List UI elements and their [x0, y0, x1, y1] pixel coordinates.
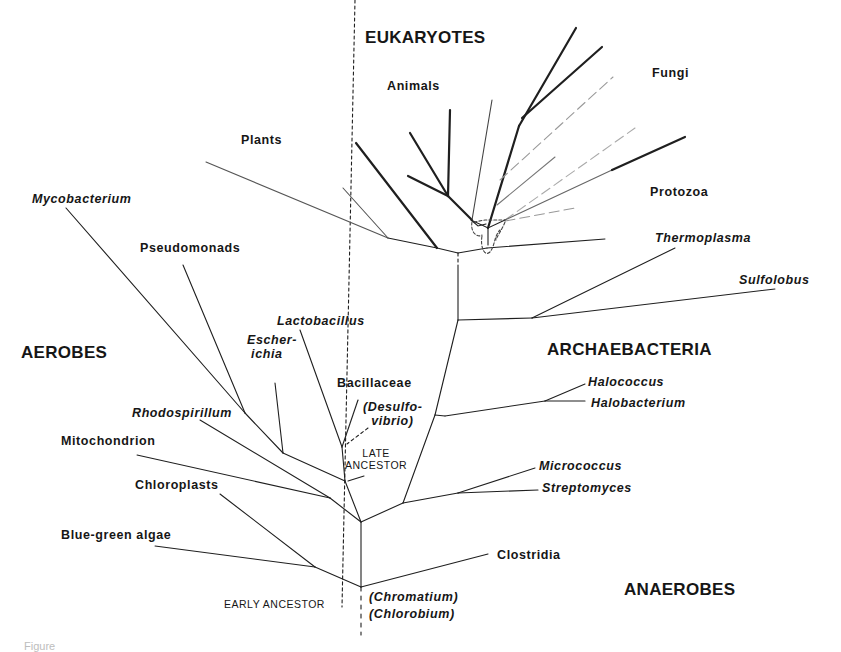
- branch-protozoa-low: [487, 239, 605, 248]
- branch-halo: [445, 401, 545, 416]
- branch-micrococcus: [458, 468, 535, 493]
- taxon-label-fungi: Fungi: [652, 66, 689, 80]
- taxon-label-mitochondrion: Mitochondrion: [61, 434, 156, 448]
- branch-clostridia: [361, 554, 488, 587]
- annotation-early-ancestor: EARLY ANCESTOR: [224, 598, 325, 610]
- taxon-label-chromatium: (Chromatium): [369, 590, 458, 604]
- late-ancestor-arrow-dashed: [347, 428, 368, 444]
- branch-to-micrococcus-node: [361, 503, 403, 522]
- branch-protozoa-1: [497, 157, 555, 205]
- taxon-label-clostridia: Clostridia: [497, 548, 561, 562]
- branch-animal-thin: [472, 100, 492, 220]
- taxon-label-plants: Plants: [241, 133, 282, 147]
- branch-halococcus: [545, 384, 585, 401]
- taxon-label-pseudomonads: Pseudomonads: [140, 241, 240, 255]
- group-label-anaerobes: ANAEROBES: [624, 580, 735, 600]
- branch-escherichia: [275, 383, 283, 453]
- branch-streptomyces: [458, 490, 538, 493]
- taxon-label-escherichia: Escher- ichia: [247, 333, 297, 362]
- taxon-label-micrococcus: Micrococcus: [539, 459, 622, 473]
- taxon-label-halobacterium: Halobacterium: [591, 396, 686, 410]
- branch-thermoplasma: [532, 248, 675, 318]
- annotation-late-ancestor: LATE ANCESTOR: [345, 447, 407, 471]
- taxon-label-animals: Animals: [387, 79, 440, 93]
- branch-fungi-dashed: [500, 77, 613, 180]
- branch-bacillaceae: [342, 400, 358, 447]
- taxon-label-thermoplasma: Thermoplasma: [655, 231, 751, 245]
- phylogenetic-tree-figure: EUKARYOTES AEROBES ARCHAEBACTERIA ANAERO…: [0, 0, 841, 652]
- tree-branches: [0, 0, 841, 652]
- taxon-label-lactobacillus: Lactobacillus: [277, 314, 365, 328]
- branch-lactobacillus: [300, 330, 342, 447]
- branch-up-eukaryote-stem: [435, 320, 458, 415]
- group-label-eukaryotes: EUKARYOTES: [365, 28, 485, 48]
- taxon-label-protozoa: Protozoa: [650, 185, 708, 199]
- branch-plants-long: [206, 162, 388, 238]
- branch-rhodospirillum: [200, 420, 330, 498]
- figure-caption-fragment: Figure: [24, 640, 55, 652]
- taxon-label-blue-green-algae: Blue-green algae: [61, 528, 171, 542]
- taxon-label-streptomyces: Streptomyces: [542, 481, 632, 495]
- taxon-label-sulfolobus: Sulfolobus: [739, 273, 810, 287]
- branch-to-blue-green-node: [315, 567, 361, 587]
- branch-mycobacterium: [66, 208, 245, 413]
- late-ancestor-arrow: [348, 476, 364, 481]
- taxon-label-chlorobium: (Chlorobium): [369, 607, 455, 621]
- branch-protozoa-2: [505, 128, 635, 220]
- taxon-label-chloroplasts: Chloroplasts: [135, 478, 219, 492]
- branch-animal-b: [448, 110, 450, 196]
- taxon-label-rhodospirillum: Rhodospirillum: [132, 406, 232, 420]
- branch-protozoa-thick: [612, 137, 685, 170]
- group-label-aerobes: AEROBES: [21, 343, 107, 363]
- group-label-archaebacteria: ARCHAEBACTERIA: [547, 340, 712, 360]
- taxon-label-bacillaceae: Bacillaceae: [337, 376, 412, 390]
- taxon-label-desulfovibrio: (Desulfo- vibrio): [363, 400, 423, 429]
- branch-pseudomonads: [183, 265, 245, 413]
- branch-fungi-b: [522, 47, 602, 118]
- taxon-label-halococcus: Halococcus: [588, 375, 664, 389]
- taxon-label-mycobacterium: Mycobacterium: [32, 192, 132, 206]
- branch-sulfolobus: [532, 289, 775, 318]
